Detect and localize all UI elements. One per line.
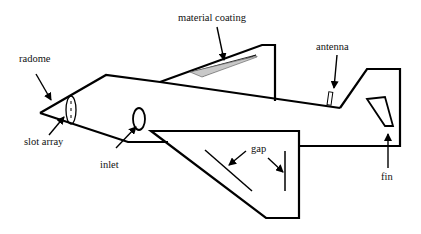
antenna-arrow [334,55,337,88]
slot-array-arrow [49,117,64,135]
gap-arrow-right [268,158,283,172]
fin-shape [367,97,393,126]
inlet-arrow [116,127,136,148]
aircraft-diagram: radome material coating antenna slot arr… [0,0,421,234]
tail [299,69,400,146]
label-radome: radome [19,54,51,65]
lower-wing [151,131,299,218]
label-slot-array: slot array [24,137,63,148]
inlet-shape [133,108,145,130]
upper-wing [160,45,275,101]
label-material-coating: material coating [178,13,246,24]
material-coating-arrow [217,27,224,60]
label-gap: gap [251,144,266,155]
label-fin: fin [381,172,393,183]
label-antenna: antenna [316,42,349,53]
gap-line-diagonal [205,150,252,191]
antenna-shape [327,92,333,105]
gap-arrow-left [229,151,246,165]
label-inlet: inlet [100,160,119,171]
radome-arrow [36,74,51,100]
